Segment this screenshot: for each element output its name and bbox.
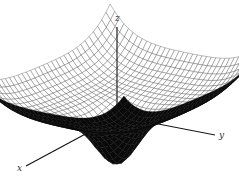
y-axis-label: y [219, 131, 224, 140]
z-axis-label: z [115, 14, 120, 23]
wireframe-surface [0, 4, 239, 164]
x-axis [26, 124, 104, 166]
x-axis-label: x [17, 164, 22, 173]
surface-plot [0, 0, 239, 195]
